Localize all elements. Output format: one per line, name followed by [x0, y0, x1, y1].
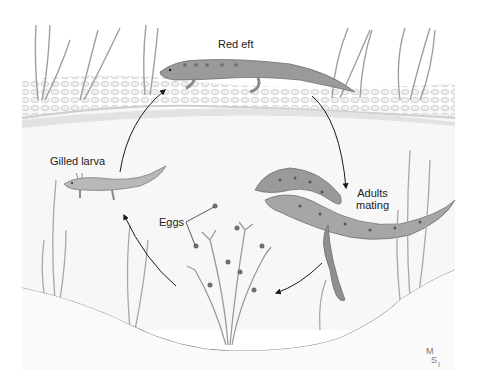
- svg-text:I: I: [438, 361, 440, 368]
- label-adults-mating: Adults mating: [356, 187, 389, 211]
- newt-life-cycle-diagram: M S I Red eft Adults mating Eggs Gilled …: [0, 0, 477, 384]
- red-eft-illustration: [160, 60, 355, 93]
- label-red-eft: Red eft: [218, 38, 253, 50]
- label-eggs: Eggs: [159, 216, 184, 228]
- label-adults-line2: mating: [356, 199, 389, 211]
- svg-text:S: S: [431, 355, 437, 365]
- label-gilled-larva: Gilled larva: [50, 155, 105, 167]
- pond-water: [22, 108, 455, 330]
- label-adults-line1: Adults: [356, 187, 389, 199]
